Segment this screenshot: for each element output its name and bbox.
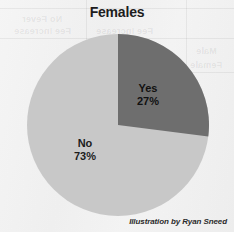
pie-label-yes-value: 27% [122,95,174,108]
pie-chart: Yes 27% No 73% [27,34,209,216]
illustration-credit: Illustration by Ryan Sneed [129,217,227,226]
pie-label-yes-name: Yes [122,82,174,95]
pie-label-no: No 73% [59,137,111,163]
pie-label-yes: Yes 27% [122,82,174,108]
pie-chart-figure: No Fever Fee Increase Fee Increase Male … [0,0,234,232]
pie-label-no-value: 73% [59,150,111,163]
pie-label-no-name: No [59,137,111,150]
pie-svg [27,34,209,216]
chart-title: Females [0,4,234,20]
